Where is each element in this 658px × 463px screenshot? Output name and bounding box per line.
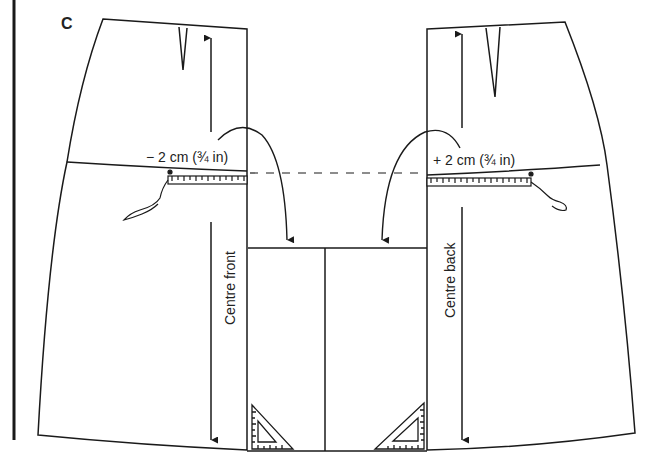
back-adjustment-label: + 2 cm (¾ in) — [433, 152, 515, 168]
centre-front-label: Centre front — [222, 251, 238, 325]
hem-extension-rectangle — [247, 248, 427, 451]
dart-icon — [179, 27, 187, 70]
set-square-icon — [252, 405, 293, 449]
front-adjustment-label: − 2 cm (¾ in) — [146, 149, 228, 165]
tape-measure-icon — [427, 172, 566, 211]
tape-measure-icon — [124, 170, 247, 220]
centre-back-label: Centre back — [442, 242, 458, 318]
panel-letter: C — [61, 15, 73, 32]
front-skirt-panel — [38, 19, 247, 450]
back-skirt-panel — [427, 22, 635, 450]
skirt-pattern-diagram: C Centre front − 2 cm (¾ in) Centre back… — [0, 0, 658, 463]
set-square-icon — [375, 403, 424, 449]
dart-icon — [486, 27, 500, 97]
